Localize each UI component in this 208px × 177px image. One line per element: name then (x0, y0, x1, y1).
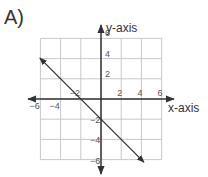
svg-text:6: 6 (158, 88, 163, 98)
svg-text:−6: −6 (29, 101, 39, 111)
axes (28, 25, 174, 174)
svg-text:4: 4 (137, 88, 142, 98)
x-axis-label: x-axis (168, 101, 199, 115)
svg-text:−6: −6 (90, 156, 100, 166)
y-axis-label: y-axis (106, 21, 137, 35)
coordinate-plane: −6−4−2246642−2−4−6 x-axis y-axis (0, 0, 208, 177)
svg-text:2: 2 (105, 69, 110, 79)
tick-labels: −6−4−2246642−2−4−6 (29, 28, 162, 165)
svg-text:−4: −4 (90, 135, 100, 145)
svg-text:−4: −4 (50, 101, 60, 111)
svg-text:2: 2 (117, 88, 122, 98)
svg-text:4: 4 (105, 49, 110, 59)
